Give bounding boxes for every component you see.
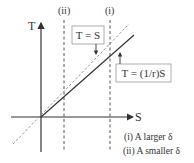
marker-label-i: (i) — [105, 5, 114, 17]
diagram-canvas: T S (ii) (i) T = S T = (1/r)S (i) A larg… — [0, 0, 194, 163]
t-axis-label: T — [28, 19, 36, 33]
legend-item-ii: (ii) A smaller δ — [123, 146, 181, 157]
s-axis-label: S — [135, 110, 142, 124]
line-t-equals-s — [13, 24, 129, 144]
legend-item-i: (i) A larger δ — [124, 132, 173, 143]
marker-label-ii: (ii) — [58, 5, 70, 17]
label-t-equals-s-over-r: T = (1/r)S — [122, 67, 166, 80]
label-t-equals-s: T = S — [76, 29, 100, 41]
